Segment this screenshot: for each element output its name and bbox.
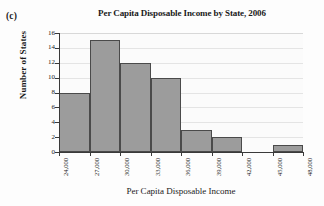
y-tick-label: 16: [36, 30, 55, 37]
x-tick-mark: [273, 152, 274, 156]
y-tick-mark: [55, 122, 59, 123]
x-tick-label: 36,000: [184, 158, 191, 176]
histogram-bar: [120, 63, 151, 152]
x-tick-label: 30,000: [123, 158, 130, 176]
x-tick-label: 27,000: [93, 158, 100, 176]
x-tick-mark: [242, 152, 243, 156]
histogram-bar: [59, 93, 90, 153]
histogram-bar: [273, 145, 304, 152]
histogram-bar: [151, 78, 182, 152]
x-tick-label: 48,000: [306, 158, 313, 176]
y-tick-mark: [55, 93, 59, 94]
x-tick-mark: [90, 152, 91, 156]
y-tick-mark: [55, 78, 59, 79]
y-axis-label: Number of States: [18, 5, 28, 125]
histogram-bar: [181, 130, 212, 152]
y-tick-label: 8: [36, 89, 55, 96]
plot-area: [59, 33, 303, 152]
x-tick-mark: [151, 152, 152, 156]
figure-container: (c) Per Capita Disposable Income by Stat…: [0, 0, 324, 206]
x-tick-mark: [212, 152, 213, 156]
histogram-bar: [90, 40, 121, 152]
x-tick-mark: [303, 152, 304, 156]
y-tick-mark: [55, 63, 59, 64]
bars-layer: [59, 33, 303, 152]
x-tick-label: 24,000: [62, 158, 69, 176]
y-tick-label: 0: [36, 149, 55, 156]
y-tick-label: 2: [36, 134, 55, 141]
y-tick-mark: [55, 33, 59, 34]
panel-label: (c): [6, 11, 17, 21]
y-tick-label: 14: [36, 44, 55, 51]
y-tick-label: 10: [36, 74, 55, 81]
y-axis-line: [59, 33, 60, 153]
y-tick-mark: [55, 107, 59, 108]
y-tick-label: 12: [36, 59, 55, 66]
y-tick-mark: [55, 48, 59, 49]
y-tick-label: 6: [36, 104, 55, 111]
histogram-bar: [212, 137, 243, 152]
x-tick-label: 33,000: [154, 158, 161, 176]
x-tick-label: 39,000: [215, 158, 222, 176]
x-tick-mark: [181, 152, 182, 156]
x-tick-label: 45,000: [276, 158, 283, 176]
y-tick-mark: [55, 137, 59, 138]
chart-title: Per Capita Disposable Income by State, 2…: [46, 8, 318, 18]
x-tick-mark: [120, 152, 121, 156]
x-axis-label: Per Capita Disposable Income: [59, 186, 303, 196]
x-tick-label: 42,000: [245, 158, 252, 176]
x-tick-mark: [59, 152, 60, 156]
y-tick-label: 4: [36, 119, 55, 126]
